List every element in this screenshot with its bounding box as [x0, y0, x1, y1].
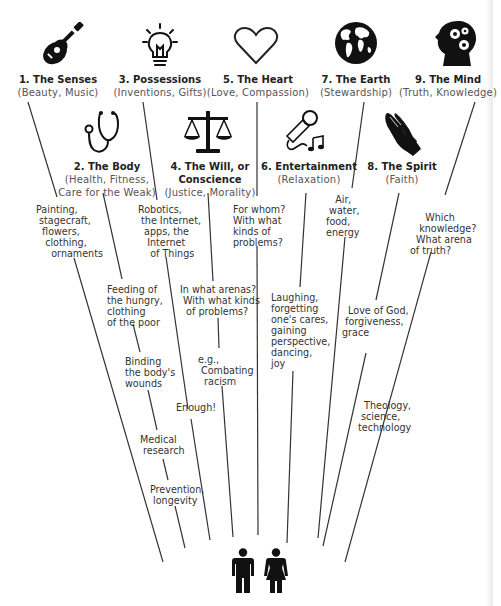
connector-body-4: [163, 459, 168, 480]
category-subtitle: (Justice, Morality): [150, 186, 270, 199]
category-title: 6. Entertainment: [250, 160, 368, 173]
connector-body-5: [175, 506, 185, 548]
category-subtitle: (Relaxation): [250, 173, 368, 186]
connector-body-3: [148, 390, 157, 430]
connector-will-1: [208, 193, 213, 281]
category-mind: 9. The Mind (Truth, Knowledge): [393, 73, 501, 99]
note-mind-which: Which knowledge? What arena of truth?: [410, 212, 476, 256]
category-subtitle: (Truth, Knowledge): [393, 86, 501, 99]
praying-hands-icon: [381, 111, 425, 157]
category-title: 8. The Spirit: [352, 160, 452, 173]
connector-will-2: [218, 318, 219, 348]
connector-body-1: [103, 193, 122, 279]
microphone-icon: [283, 110, 333, 156]
scales-icon: [182, 110, 234, 156]
category-spirit: 8. The Spirit (Faith): [352, 160, 452, 186]
category-title: 2. The Body: [47, 160, 167, 173]
heart-icon: [233, 26, 279, 66]
note-body-prevention: Prevention, longevity: [150, 484, 204, 506]
note-senses-arts: Painting, stagecraft, flowers, clothing,…: [36, 204, 103, 259]
note-body-feeding: Feeding of the hungry, clothing of the p…: [107, 284, 163, 328]
note-possessions-enough: Enough!: [176, 402, 216, 413]
note-heart-whom: For whom? With what kinds of problems?: [233, 204, 285, 248]
note-will-arenas: In what arenas? With what kinds of probl…: [180, 284, 260, 317]
guitar-icon: [38, 22, 88, 68]
note-entertainment-joy: Laughing, forgetting one's cares, gainin…: [271, 292, 330, 369]
stethoscope-icon: [80, 110, 124, 156]
note-body-research: Medical research: [140, 434, 185, 456]
category-subtitle: (Health, Fitness, Care for the Weak): [47, 173, 167, 199]
category-entertainment: 6. Entertainment (Relaxation): [250, 160, 368, 186]
connector-spirit-1: [376, 193, 399, 300]
connector-possessions-3: [191, 419, 210, 540]
connector-entertainment-2: [287, 371, 293, 543]
connector-body-2: [133, 324, 140, 352]
note-will-racism: e.g., Combating racism: [198, 354, 254, 387]
category-subtitle: (Faith): [352, 173, 452, 186]
connector-earth-2: [318, 237, 345, 538]
man-icon: [230, 548, 256, 594]
note-mind-theology: Theology, science, technology: [358, 400, 411, 433]
head-gears-icon: [433, 20, 481, 68]
note-possessions-tech: Robotics, the Internet, apps, the Intern…: [138, 204, 201, 259]
woman-icon: [263, 548, 289, 594]
connector-spirit-2: [323, 353, 366, 546]
connector-will-3: [222, 386, 233, 537]
connector-entertainment-1: [300, 193, 306, 287]
globe-icon: [333, 20, 379, 66]
category-body: 2. The Body (Health, Fitness, Care for t…: [47, 160, 167, 199]
lightbulb-icon: [140, 22, 180, 70]
note-body-wounds: Binding the body's wounds: [125, 356, 175, 389]
note-earth-resources: Air, water, food, energy: [326, 194, 359, 238]
category-title: 9. The Mind: [393, 73, 501, 86]
note-spirit-love: Love of God, forgiveness, grace: [342, 305, 409, 338]
